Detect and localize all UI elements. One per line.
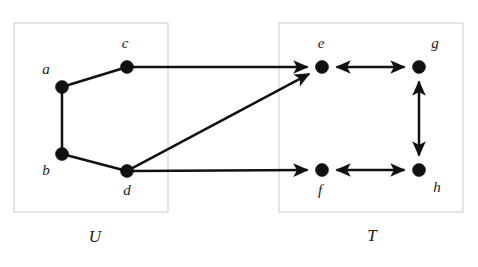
node-label-a: a [42,61,50,77]
edges-layer [62,67,419,171]
graph-node-g[interactable] [413,61,426,74]
graph-node-e[interactable] [316,61,329,74]
graph-figure: UTabcdefgh [0,0,478,267]
graph-node-d[interactable] [121,165,134,178]
graph-node-c[interactable] [121,61,134,74]
group-label-U: U [89,227,103,246]
graph-node-b[interactable] [56,148,69,161]
edge-d-e [131,74,309,169]
node-label-e: e [318,35,325,51]
node-label-f: f [318,182,324,198]
edge-b-d [67,155,122,169]
graph-node-h[interactable] [413,164,426,177]
group-label-T: T [367,226,378,245]
node-label-b: b [42,162,50,178]
nodes-layer [56,61,426,178]
node-label-d: d [123,182,131,198]
edge-d-f [132,170,308,171]
node-label-h: h [433,179,441,195]
group-boxes-layer [14,23,463,212]
edge-a-c [67,68,122,85]
node-label-c: c [122,35,129,51]
graph-node-a[interactable] [56,81,69,94]
node-label-g: g [431,35,439,51]
group-box-U [14,23,168,212]
graph-node-f[interactable] [316,164,329,177]
graph-canvas: UTabcdefgh [0,0,478,267]
